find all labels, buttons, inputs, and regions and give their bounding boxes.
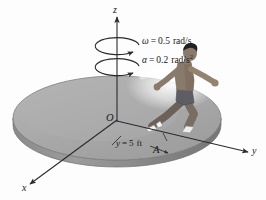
z-axis-label: z <box>113 5 117 15</box>
alpha-symbol: α <box>142 55 147 65</box>
point-a-label: A <box>153 145 159 156</box>
dimension-equals: = <box>122 138 127 148</box>
runner-front-hand <box>211 79 218 86</box>
alpha-unit-exponent: 2 <box>190 53 193 60</box>
physics-diagram-rotating-platform: z y x O A ω=0.5rad/s α=0.2rad/s2 y=5ft <box>0 0 266 200</box>
x-axis-label: x <box>22 183 26 193</box>
runner-rear-hand <box>154 84 161 91</box>
dimension-unit: ft <box>137 138 143 148</box>
alpha-unit: rad/s <box>171 55 189 65</box>
dimension-value: 5 <box>129 138 134 148</box>
omega-value: 0.5 <box>158 36 170 46</box>
diagram-vector-layer <box>0 0 266 200</box>
motion-blur-glow <box>126 59 218 111</box>
origin-label: O <box>106 113 114 124</box>
dimension-symbol: y <box>116 138 120 148</box>
omega-symbol: ω <box>142 36 149 46</box>
radial-dimension-label: y=5ft <box>116 139 142 148</box>
alpha-value: 0.2 <box>156 55 168 65</box>
alpha-equals: = <box>149 55 154 65</box>
omega-annotation: ω=0.5rad/s <box>142 37 191 47</box>
alpha-annotation: α=0.2rad/s2 <box>142 56 193 66</box>
omega-unit: rad/s <box>173 36 191 46</box>
y-axis-label: y <box>252 146 256 156</box>
omega-equals: = <box>151 36 156 46</box>
